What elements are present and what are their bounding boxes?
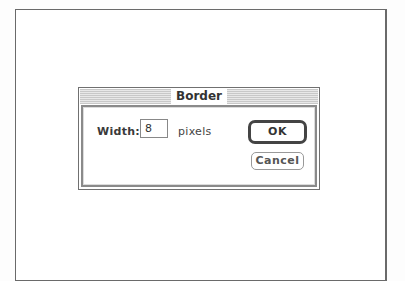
pixels-label: pixels <box>178 125 212 138</box>
dialog-titlebar[interactable]: Border <box>80 89 318 104</box>
width-label: Width: <box>97 125 140 138</box>
ok-button[interactable]: OK <box>253 125 302 139</box>
cancel-button[interactable]: Cancel <box>251 152 304 170</box>
width-input[interactable]: 8 <box>140 119 168 138</box>
default-button-ring: OK <box>248 120 307 144</box>
dialog-title: Border <box>171 89 227 104</box>
border-dialog: Border Width: 8 pixels OK Cancel <box>78 87 320 190</box>
dialog-body: Width: 8 pixels OK Cancel <box>81 105 317 187</box>
